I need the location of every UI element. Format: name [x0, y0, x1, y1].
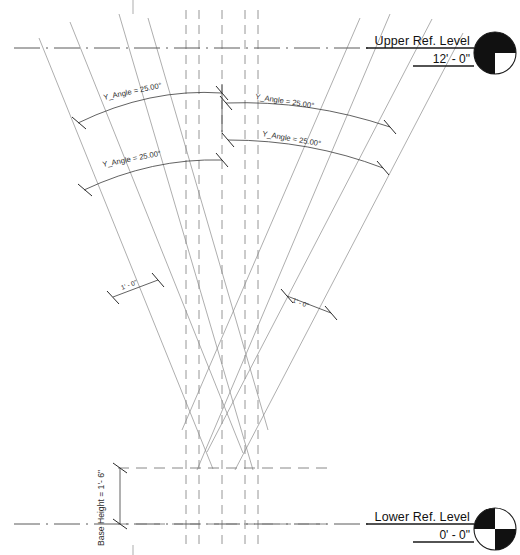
- upper-marker-q3: [474, 53, 495, 74]
- angle-label-outer-left: Y_Angle = 25.00°: [103, 81, 163, 102]
- width-tick-right-b: [325, 306, 337, 320]
- lower-level-elevation: 0' - 0": [439, 528, 470, 542]
- angle-label-outer-right: Y_Angle = 25.00°: [255, 92, 315, 110]
- right-inner-outer-edge: [197, 14, 390, 470]
- width-label-left: 1' - 0": [120, 278, 139, 291]
- lower-level-tag[interactable]: Lower Ref. Level 0' - 0": [366, 508, 516, 550]
- lower-marker-q4: [495, 529, 516, 550]
- lower-marker-q2: [474, 508, 495, 529]
- angle-dim-inner-left: Y_Angle = 25.00°: [78, 149, 228, 196]
- upper-level-name: Upper Ref. Level: [375, 34, 470, 48]
- upper-marker-q1: [495, 32, 516, 53]
- left-inner-member-geometry: [119, 14, 268, 470]
- angle-tick-outer-right-b: [384, 120, 396, 134]
- lower-level-name: Lower Ref. Level: [375, 510, 470, 524]
- left-member-outer-edge: [39, 38, 213, 469]
- base-height-dimension: Base Height = 1'- 6": [96, 463, 127, 546]
- angle-dim-inner-right: Y_Angle = 25.00°: [222, 129, 389, 175]
- width-tick-left-a: [107, 291, 119, 304]
- cad-canvas: Y_Angle = 25.00° Y_Angle = 25.00° Y_Angl…: [0, 0, 520, 555]
- angle-dim-outer-left: Y_Angle = 25.00°: [72, 81, 228, 132]
- angle-dim-outer-right: Y_Angle = 25.00°: [220, 92, 396, 134]
- upper-level-elevation: 12' - 0": [433, 52, 470, 66]
- angle-label-inner-right: Y_Angle = 25.00°: [262, 129, 322, 148]
- angle-tick-inner-right-b: [377, 161, 389, 175]
- width-tick-left-b: [152, 273, 164, 287]
- base-height-label: Base Height = 1'- 6": [96, 470, 106, 546]
- upper-level-tag[interactable]: Upper Ref. Level 12' - 0": [366, 32, 516, 74]
- right-inner-edge-b: [182, 18, 360, 430]
- width-tick-right-a: [281, 289, 293, 303]
- upper-level-marker-icon: [474, 32, 516, 74]
- right-member-inner-edge: [207, 19, 432, 452]
- angle-label-inner-left: Y_Angle = 25.00°: [102, 149, 162, 169]
- upper-marker-q2: [474, 32, 495, 53]
- lower-level-marker-icon: [474, 508, 516, 550]
- left-inner-edge-b: [148, 18, 268, 430]
- technical-drawing: Y_Angle = 25.00° Y_Angle = 25.00° Y_Angl…: [0, 0, 520, 555]
- width-label-right: 1' - 0": [292, 296, 311, 309]
- angle-tick-outer-left-a: [72, 117, 86, 129]
- angle-tick-inner-left-a: [78, 184, 92, 196]
